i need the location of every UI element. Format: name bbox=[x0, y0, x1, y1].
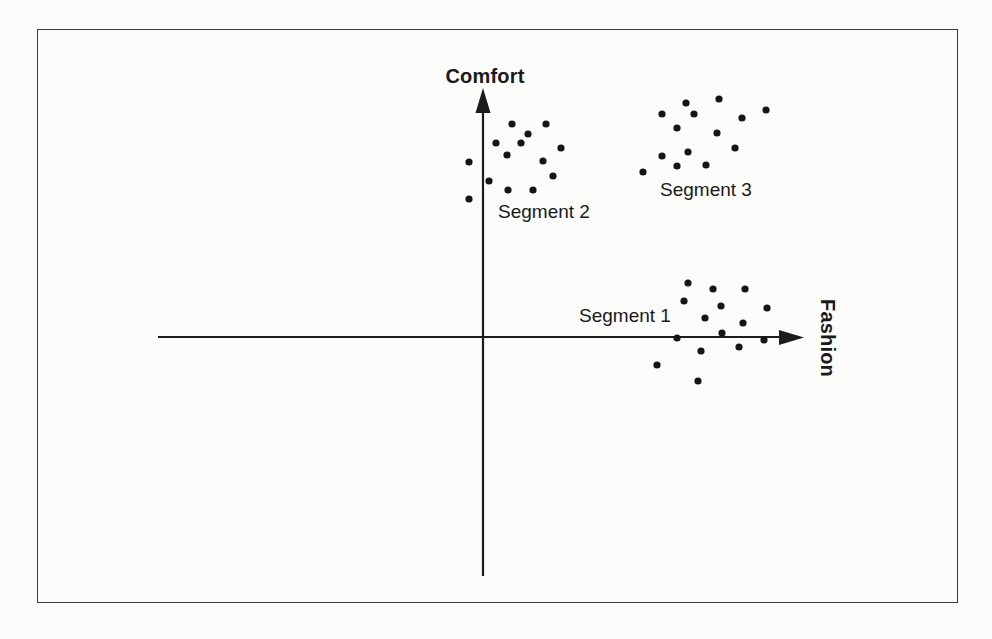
data-point bbox=[738, 114, 745, 121]
data-point bbox=[739, 319, 746, 326]
data-point bbox=[465, 158, 472, 165]
data-point bbox=[713, 129, 720, 136]
data-point bbox=[508, 120, 515, 127]
data-point bbox=[639, 168, 646, 175]
data-point bbox=[709, 285, 716, 292]
data-point bbox=[763, 304, 770, 311]
data-point bbox=[529, 186, 536, 193]
data-point bbox=[702, 161, 709, 168]
data-point bbox=[731, 144, 738, 151]
data-point bbox=[504, 186, 511, 193]
data-point bbox=[557, 144, 564, 151]
x-axis-arrowhead-icon bbox=[779, 330, 804, 345]
data-point bbox=[701, 314, 708, 321]
data-point bbox=[718, 329, 725, 336]
data-point bbox=[517, 139, 524, 146]
data-point bbox=[673, 334, 680, 341]
data-point bbox=[760, 336, 767, 343]
data-point bbox=[485, 177, 492, 184]
data-point bbox=[684, 148, 691, 155]
data-point bbox=[549, 172, 556, 179]
data-point bbox=[542, 120, 549, 127]
data-point bbox=[503, 151, 510, 158]
data-point bbox=[658, 110, 665, 117]
data-point bbox=[741, 285, 748, 292]
perceptual-map-chart bbox=[0, 0, 992, 639]
data-point bbox=[465, 195, 472, 202]
data-point bbox=[717, 302, 724, 309]
data-point bbox=[680, 297, 687, 304]
data-point bbox=[524, 130, 531, 137]
data-point bbox=[492, 139, 499, 146]
x-axis-label: Fashion bbox=[816, 299, 839, 377]
data-point bbox=[697, 347, 704, 354]
data-point bbox=[762, 106, 769, 113]
data-point bbox=[735, 343, 742, 350]
segment-3-label: Segment 3 bbox=[660, 179, 752, 201]
segment-2-label: Segment 2 bbox=[498, 201, 590, 223]
y-axis-arrowhead-icon bbox=[476, 88, 491, 113]
data-point bbox=[694, 377, 701, 384]
scatter-points bbox=[465, 95, 770, 384]
axes bbox=[158, 88, 804, 576]
data-point bbox=[673, 124, 680, 131]
data-point bbox=[684, 279, 691, 286]
data-point bbox=[682, 99, 689, 106]
data-point bbox=[539, 157, 546, 164]
data-point bbox=[690, 110, 697, 117]
data-point bbox=[715, 95, 722, 102]
data-point bbox=[673, 162, 680, 169]
segment-1-label: Segment 1 bbox=[579, 305, 671, 327]
data-point bbox=[658, 152, 665, 159]
data-point bbox=[653, 361, 660, 368]
y-axis-label: Comfort bbox=[445, 65, 524, 88]
